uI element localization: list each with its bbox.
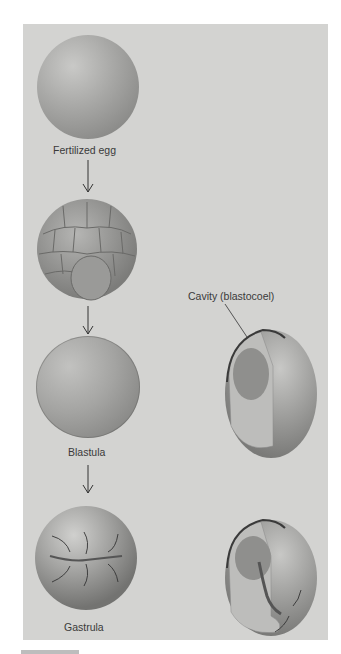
figure-panel: Fertilized egg Blastula — [23, 24, 328, 640]
blastocoel-label: Cavity (blastocoel) — [188, 290, 274, 302]
down-arrow-icon — [81, 465, 95, 495]
down-arrow-icon — [81, 160, 95, 194]
footer-bar — [21, 650, 79, 654]
blastula-cutaway — [215, 326, 319, 461]
gastrula-embryo — [32, 504, 140, 612]
gastrula-label: Gastrula — [64, 621, 104, 633]
cleavage-embryo — [33, 194, 141, 304]
fertilized-egg-sphere — [37, 35, 139, 139]
fertilized-egg-label: Fertilized egg — [53, 144, 116, 156]
blastula-label: Blastula — [68, 446, 105, 458]
gastrula-cutaway — [215, 516, 319, 644]
down-arrow-icon — [81, 306, 95, 336]
blastula-sphere — [36, 336, 140, 438]
